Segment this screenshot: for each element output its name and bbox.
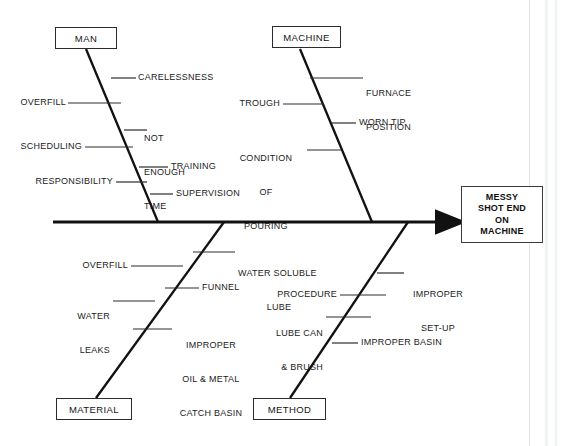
effect-line-1: MESSY [486, 192, 519, 204]
water-soluble-lube-line-1: WATER SOLUBLE [238, 268, 320, 279]
cause-label-overfill-material[interactable]: OVERFILL [68, 260, 128, 271]
cause-label-worn-tip[interactable]: WORN TIP [359, 117, 406, 128]
improper-setup-line-2: SET-UP [407, 323, 469, 334]
condition-of-pouring-line-1: CONDITION [230, 153, 302, 164]
cause-label-training[interactable]: TRAINING [171, 161, 216, 172]
cause-label-carelessness[interactable]: CARELESSNESS [138, 72, 214, 83]
category-box-method[interactable]: METHOD [253, 398, 326, 420]
fishbone-diagram-canvas: MAN MACHINE MATERIAL METHOD MESSY SHOT E… [0, 0, 562, 446]
lube-can-line-1: LUBE CAN [262, 328, 323, 339]
cause-label-not-enough-time[interactable]: NOT ENOUGH TIME [144, 111, 185, 234]
category-box-man[interactable]: MAN [55, 27, 117, 49]
category-label-machine: MACHINE [283, 32, 330, 43]
cause-label-funnel[interactable]: FUNNEL [202, 282, 240, 293]
bone-machine [300, 49, 372, 222]
category-box-material[interactable]: MATERIAL [56, 398, 132, 420]
cause-label-responsibility[interactable]: RESPONSIBILITY [6, 176, 113, 187]
furnace-position-line-1: FURNACE [366, 88, 411, 99]
improper-setup-line-1: IMPROPER [407, 289, 469, 300]
category-label-method: METHOD [268, 404, 312, 415]
water-leaks-line-2: LEAKS [56, 345, 110, 356]
category-label-material: MATERIAL [69, 404, 119, 415]
improper-oil-line-3: CATCH BASIN [175, 408, 247, 419]
lube-can-line-2: & BRUSH [262, 362, 323, 373]
water-leaks-line-1: WATER [56, 311, 110, 322]
effect-line-2: SHOT END [478, 203, 526, 215]
effect-line-4: MACHINE [480, 226, 523, 238]
cause-label-water-leaks[interactable]: WATER LEAKS [56, 289, 110, 379]
condition-of-pouring-line-2: OF [230, 187, 302, 198]
not-enough-time-line-3: TIME [144, 201, 185, 212]
cause-label-trough[interactable]: TROUGH [222, 98, 280, 109]
cause-label-procedure[interactable]: PROCEDURE [275, 289, 337, 300]
category-label-man: MAN [75, 33, 97, 44]
improper-oil-line-2: OIL & METAL [175, 374, 247, 385]
effect-line-3: ON [495, 215, 509, 227]
category-box-machine[interactable]: MACHINE [272, 26, 341, 48]
not-enough-time-line-1: NOT [144, 133, 185, 144]
cause-label-lube-can-brush[interactable]: LUBE CAN & BRUSH [262, 306, 323, 396]
cause-label-improper-oil-metal-catch-basin[interactable]: IMPROPER OIL & METAL CATCH BASIN [175, 318, 247, 441]
condition-of-pouring-line-3: POURING [230, 221, 302, 232]
improper-oil-line-1: IMPROPER [175, 340, 247, 351]
cause-label-scheduling[interactable]: SCHEDULING [6, 141, 82, 152]
cause-label-furnace-position[interactable]: FURNACE POSITION [366, 66, 411, 156]
effect-box[interactable]: MESSY SHOT END ON MACHINE [461, 186, 543, 243]
cause-label-overfill-man[interactable]: OVERFILL [6, 97, 66, 108]
cause-label-condition-of-pouring[interactable]: CONDITION OF POURING [230, 131, 302, 254]
cause-label-improper-basin[interactable]: IMPROPER BASIN [361, 337, 442, 348]
